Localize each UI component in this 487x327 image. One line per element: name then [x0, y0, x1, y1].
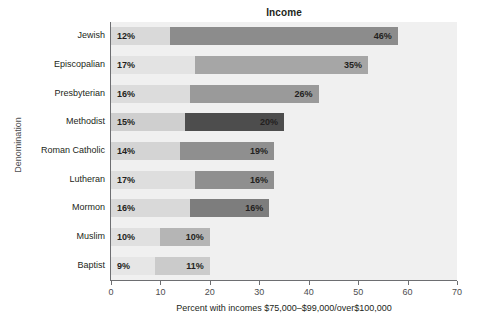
x-tick-mark: [408, 281, 409, 285]
bar-segment-income-75k: 10%: [111, 228, 160, 246]
category-label: Mormon: [0, 202, 105, 212]
x-tick-mark: [111, 281, 112, 285]
bar-segment-label: 14%: [117, 146, 135, 156]
bar-segment-income-100k: 16%: [190, 199, 269, 217]
bar-segment-label: 17%: [117, 175, 135, 185]
bar-segment-label: 16%: [250, 175, 268, 185]
bar-row: 16%26%: [111, 85, 457, 103]
bar-segment-income-100k: 35%: [195, 56, 368, 74]
category-label: Episcopalian: [0, 59, 105, 69]
bar-row: 16%16%: [111, 199, 457, 217]
category-label: Methodist: [0, 116, 105, 126]
bar-segment-label: 46%: [374, 31, 392, 41]
bar-segment-label: 9%: [117, 261, 130, 271]
x-tick-label: 40: [289, 287, 329, 297]
bar-segment-label: 16%: [117, 89, 135, 99]
category-label: Muslim: [0, 231, 105, 241]
category-label: Jewish: [0, 30, 105, 40]
bar-segment-income-75k: 12%: [111, 27, 170, 45]
x-tick-mark: [160, 281, 161, 285]
bar-segment-income-100k: 46%: [170, 27, 397, 45]
bar-segment-label: 11%: [186, 261, 204, 271]
category-label: Lutheran: [0, 174, 105, 184]
bar-segment-label: 16%: [245, 203, 263, 213]
bar-segment-income-75k: 9%: [111, 257, 155, 275]
bar-segment-income-75k: 14%: [111, 142, 180, 160]
bar-segment-income-75k: 16%: [111, 85, 190, 103]
bar-segment-income-100k: 20%: [185, 113, 284, 131]
bar-segment-label: 19%: [250, 146, 268, 156]
x-tick-mark: [309, 281, 310, 285]
category-label: Baptist: [0, 260, 105, 270]
chart-title: Income: [111, 7, 457, 18]
x-tick-mark: [210, 281, 211, 285]
bar-segment-label: 15%: [117, 117, 135, 127]
x-tick-label: 60: [388, 287, 428, 297]
bar-segment-label: 20%: [260, 117, 278, 127]
bar-row: 12%46%: [111, 27, 457, 45]
x-tick-label: 20: [190, 287, 230, 297]
x-tick-label: 70: [437, 287, 477, 297]
bar-row: 17%35%: [111, 56, 457, 74]
bar-row: 14%19%: [111, 142, 457, 160]
x-tick-label: 10: [140, 287, 180, 297]
x-tick-mark: [457, 281, 458, 285]
bar-row: 17%16%: [111, 171, 457, 189]
bar-segment-income-100k: 16%: [195, 171, 274, 189]
bar-segment-income-100k: 26%: [190, 85, 319, 103]
x-tick-mark: [358, 281, 359, 285]
x-tick-mark: [259, 281, 260, 285]
bar-segment-label: 26%: [295, 89, 313, 99]
bar-segment-income-75k: 17%: [111, 56, 195, 74]
bar-segment-income-75k: 15%: [111, 113, 185, 131]
bar-segment-label: 12%: [117, 31, 135, 41]
bar-segment-income-75k: 16%: [111, 199, 190, 217]
bar-segment-income-100k: 11%: [155, 257, 209, 275]
bar-segment-income-75k: 17%: [111, 171, 195, 189]
x-axis-title: Percent with incomes $75,000–$99,000/ove…: [111, 303, 457, 313]
bar-segment-label: 35%: [344, 60, 362, 70]
bar-row: 10%10%: [111, 228, 457, 246]
bar-segment-label: 16%: [117, 203, 135, 213]
bar-segment-income-100k: 10%: [160, 228, 209, 246]
category-label: Roman Catholic: [0, 145, 105, 155]
stacked-bar-chart: Income Denomination 010203040506070 12%4…: [0, 0, 487, 327]
bar-segment-label: 10%: [186, 232, 204, 242]
x-tick-label: 30: [239, 287, 279, 297]
bar-segment-label: 17%: [117, 60, 135, 70]
x-tick-label: 50: [338, 287, 378, 297]
category-label: Presbyterian: [0, 88, 105, 98]
bar-segment-income-100k: 19%: [180, 142, 274, 160]
bar-segment-label: 10%: [117, 232, 135, 242]
bar-row: 9%11%: [111, 257, 457, 275]
x-axis-line: [110, 280, 457, 281]
x-tick-label: 0: [91, 287, 131, 297]
bar-row: 15%20%: [111, 113, 457, 131]
